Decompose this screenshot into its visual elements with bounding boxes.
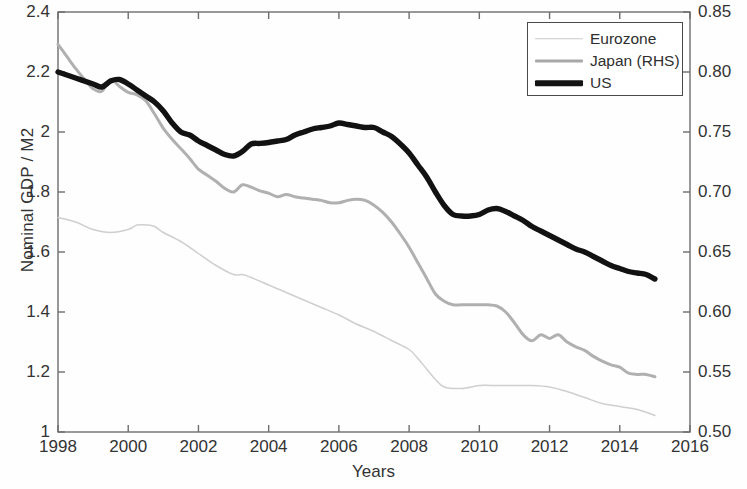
legend-item-eurozone: Eurozone [528,28,682,50]
legend-swatch-us-icon [535,77,583,89]
legend-swatch-eurozone-icon [535,33,583,45]
legend-swatch-japan-icon [535,55,583,67]
legend-item-japan: Japan (RHS) [528,50,682,72]
chart-figure: Nominal GDP / M2 Years 11.21.41.61.822.2… [0,0,747,489]
series-line-eurozone [58,218,655,416]
legend-item-us: US [528,72,682,94]
legend-label-us: US [590,75,612,91]
legend-label-japan: Japan (RHS) [590,53,680,69]
legend: Eurozone Japan (RHS) US [527,22,683,96]
legend-label-eurozone: Eurozone [590,31,656,47]
